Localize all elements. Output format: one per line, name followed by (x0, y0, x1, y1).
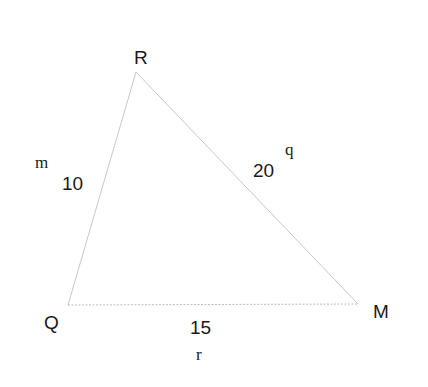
side-name-q: q (285, 140, 294, 159)
vertex-label-q: Q (44, 312, 59, 333)
side-name-r: r (196, 345, 202, 364)
side-length-rm: 20 (253, 160, 274, 181)
side-length-qm: 15 (190, 317, 211, 338)
triangle-diagram: R Q M m 10 20 q 15 r (0, 0, 428, 387)
side-length-qr: 10 (62, 173, 83, 194)
side-qm (68, 304, 358, 305)
side-rm (136, 72, 358, 304)
side-name-m: m (35, 153, 48, 172)
vertex-label-r: R (134, 47, 148, 68)
vertex-label-m: M (373, 301, 389, 322)
